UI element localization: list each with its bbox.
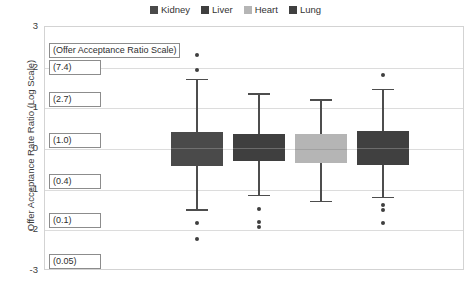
y-tick-label: 3	[12, 21, 38, 31]
legend-item-heart[interactable]: Heart	[244, 5, 278, 15]
legend-swatch-icon	[150, 6, 158, 14]
legend-swatch-icon	[289, 6, 297, 14]
y-tick-label: 2	[12, 62, 38, 72]
legend-item-kidney[interactable]: Kidney	[150, 5, 190, 15]
boxplot-chart: KidneyLiverHeartLung Offer Acceptance Ra…	[0, 0, 471, 287]
outlier-point	[381, 221, 385, 225]
legend-label: Lung	[300, 5, 321, 15]
y-tick-label: 1	[12, 102, 38, 112]
outlier-point	[381, 208, 385, 212]
whisker-cap-lower	[372, 197, 394, 198]
boxplot-lung[interactable]	[45, 27, 463, 269]
legend-swatch-icon	[244, 6, 252, 14]
y-tick-label: -1	[12, 184, 38, 194]
legend-item-liver[interactable]: Liver	[201, 5, 233, 15]
y-tick-label: 0	[12, 143, 38, 153]
y-tick-label: -2	[12, 224, 38, 234]
whisker-lower	[382, 165, 383, 197]
whisker-upper	[382, 89, 383, 131]
outlier-point	[381, 73, 385, 77]
legend-label: Liver	[212, 5, 233, 15]
legend-label: Kidney	[161, 5, 190, 15]
legend-item-lung[interactable]: Lung	[289, 5, 321, 15]
legend-swatch-icon	[201, 6, 209, 14]
outlier-point	[381, 203, 385, 207]
plot-area: (Offer Acceptance Ratio Scale)(7.4)(2.7)…	[44, 26, 464, 270]
y-tick-label: -3	[12, 265, 38, 275]
chart-legend: KidneyLiverHeartLung	[0, 3, 471, 16]
median-line	[357, 148, 409, 149]
whisker-cap-upper	[372, 89, 394, 90]
legend-label: Heart	[255, 5, 278, 15]
